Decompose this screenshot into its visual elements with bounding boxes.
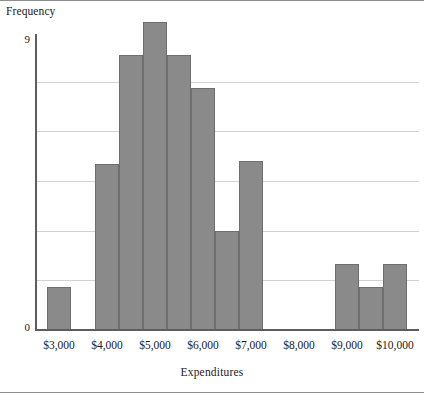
x-tick-label: $3,000 — [43, 339, 75, 351]
histogram-bar — [335, 264, 359, 330]
x-tick-label: $10,000 — [376, 339, 413, 351]
y-axis-title: Frequency — [6, 5, 55, 17]
histogram-bar — [119, 55, 143, 330]
histogram-bar — [95, 164, 119, 330]
y-gridline — [35, 82, 419, 83]
x-tick-label: $4,000 — [91, 339, 123, 351]
histogram-bar — [239, 161, 263, 330]
x-axis-line — [35, 329, 419, 331]
histogram-bar — [215, 231, 239, 330]
histogram-bar — [167, 55, 191, 330]
x-axis-title: Expenditures — [0, 366, 424, 378]
y-tick-label-min: 0 — [6, 321, 30, 333]
y-gridline — [35, 131, 419, 132]
y-tick-label-max: 9 — [6, 33, 30, 45]
y-axis-line — [35, 34, 37, 330]
plot-area — [35, 32, 419, 330]
x-tick-label: $9,000 — [331, 339, 363, 351]
x-tick-label: $7,000 — [235, 339, 267, 351]
x-tick-label: $5,000 — [139, 339, 171, 351]
histogram-figure: Frequency 9 0 $3,000$4,000$5,000$6,000$7… — [0, 0, 424, 393]
histogram-bar — [383, 264, 407, 330]
histogram-bar — [47, 287, 71, 330]
histogram-bar — [191, 88, 215, 330]
y-gridline — [35, 181, 419, 182]
x-tick-label: $8,000 — [283, 339, 315, 351]
x-tick-label: $6,000 — [187, 339, 219, 351]
histogram-bar — [359, 287, 383, 330]
figure-top-rule — [0, 0, 424, 1]
histogram-bar — [143, 22, 167, 330]
